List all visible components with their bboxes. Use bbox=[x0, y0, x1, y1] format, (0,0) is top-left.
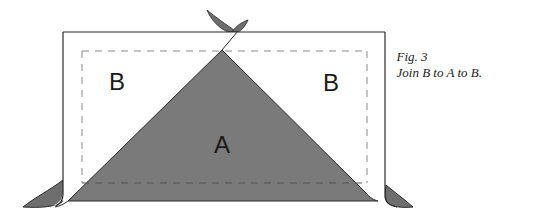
top-left-ear bbox=[207, 10, 237, 32]
piece-label-b-left: B bbox=[109, 70, 125, 94]
top-right-ear bbox=[232, 20, 248, 32]
piece-label-a: A bbox=[214, 133, 230, 157]
top-dog-ears bbox=[207, 10, 248, 32]
figure-caption-text: Join B to A to B. bbox=[397, 65, 482, 80]
rect-left-edge bbox=[56, 32, 63, 206]
figure-number: Fig. 3 bbox=[397, 49, 428, 64]
piece-label-b-right: B bbox=[323, 71, 339, 95]
figure-caption: Fig. 3 Join B to A to B. bbox=[390, 33, 482, 81]
